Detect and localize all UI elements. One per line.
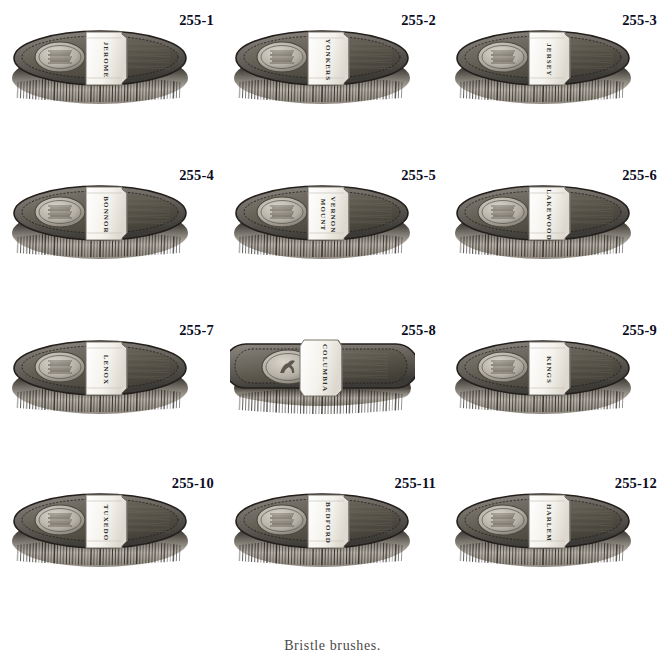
crest-emblem-icon <box>477 505 529 537</box>
brush-cell-255-2[interactable]: 255-2 YONKERS <box>222 2 444 152</box>
brush-brand-label: JERSEY <box>545 30 553 90</box>
figure-caption: Bristle brushes. <box>0 638 665 654</box>
crest-emblem-icon <box>34 505 86 537</box>
brush-brand-label: BEDFORD <box>324 493 332 553</box>
brush-cell-255-5[interactable]: 255-5 MOUNTVERNON <box>222 157 444 307</box>
brush-cell-255-7[interactable]: 255-7 LENOX <box>0 312 222 462</box>
brush-cell-255-10[interactable]: 255-10 TUXEDO <box>0 465 222 615</box>
brush-brand-label: TUXEDO <box>102 493 110 553</box>
crest-emblem-icon <box>477 352 529 384</box>
brush-brand-label: LENOX <box>102 340 110 400</box>
brush-brand-label: HARLEM <box>545 493 553 553</box>
brush-brand-label: JEROME <box>102 30 110 90</box>
brush-cell-255-9[interactable]: 255-9 KINGS <box>443 312 665 462</box>
brush-cell-255-11[interactable]: 255-11 BEDFORD <box>222 465 444 615</box>
crest-emblem-icon <box>34 42 86 74</box>
brush-brand-label: YONKERS <box>324 30 332 90</box>
brush-brand-label: COLUMBIA <box>321 338 329 398</box>
crest-emblem-icon <box>256 197 308 229</box>
crest-emblem-icon <box>477 197 529 229</box>
brush-cell-255-6[interactable]: 255-6 LAKEWOOD <box>443 157 665 307</box>
catalog-page: 255-1 JEROME 255-2 <box>0 0 665 662</box>
crest-emblem-icon <box>34 197 86 229</box>
brush-cell-255-3[interactable]: 255-3 JERSEY <box>443 2 665 152</box>
crest-emblem-icon <box>477 42 529 74</box>
brush-row: 255-10 TUXEDO 255-11 <box>0 465 665 615</box>
crest-emblem-icon <box>34 352 86 384</box>
brush-brand-label: VERNON <box>329 185 337 245</box>
crest-emblem-icon <box>256 42 308 74</box>
brush-brand-label: MOUNT <box>319 185 327 245</box>
brush-row: 255-4 BONNOR 255-5 <box>0 157 665 307</box>
brush-brand-label: BONNOR <box>102 185 110 245</box>
brush-brand-label: LAKEWOOD <box>545 185 553 245</box>
brush-row: 255-1 JEROME 255-2 <box>0 2 665 152</box>
brush-cell-255-1[interactable]: 255-1 JEROME <box>0 2 222 152</box>
brush-row: 255-7 LENOX 255-8 <box>0 312 665 462</box>
brush-brand-label: KINGS <box>545 340 553 400</box>
horse-emblem-icon <box>262 352 314 384</box>
brush-cell-255-8[interactable]: 255-8 COLUMBIA <box>222 312 444 462</box>
brush-cell-255-12[interactable]: 255-12 HARLEM <box>443 465 665 615</box>
crest-emblem-icon <box>256 505 308 537</box>
brush-cell-255-4[interactable]: 255-4 BONNOR <box>0 157 222 307</box>
